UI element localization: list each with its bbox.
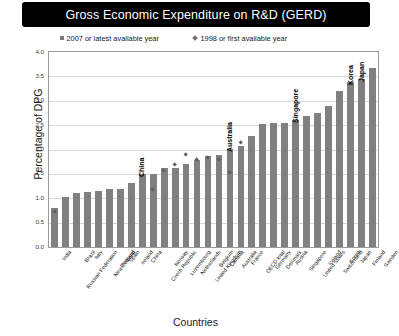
bar <box>139 174 146 247</box>
y-tick-label: 1.0 <box>22 194 44 201</box>
legend-label-1998: 1998 or first available year <box>200 34 287 43</box>
x-axis-ticks: IndiaRussian FederationBrazilItalyNew Ze… <box>48 249 379 311</box>
plot-area: ChinaAustraliaSingaporeKoreaJapan <box>48 51 379 248</box>
diamond-marker <box>184 152 189 157</box>
bar <box>248 136 255 247</box>
bar <box>369 68 376 247</box>
bar-annotation: Korea <box>347 65 354 85</box>
y-tick-label: 0.5 <box>22 218 44 225</box>
bar <box>62 197 69 247</box>
page-title: Gross Economic Expenditure on R&D (GERD) <box>65 8 326 22</box>
bar <box>117 189 124 248</box>
bars-layer <box>49 52 378 247</box>
bar <box>347 82 354 247</box>
bar-annotation: Singapore <box>292 89 299 123</box>
bar <box>303 116 310 247</box>
bar-annotation: Japan <box>358 62 365 82</box>
bar-annotation: China <box>138 158 145 177</box>
chart-legend: 2007 or latest available year 1998 or fi… <box>60 31 360 45</box>
bar <box>106 189 113 247</box>
bar <box>172 168 179 247</box>
bar <box>84 192 91 247</box>
diamond-marker <box>239 140 244 145</box>
chart-title-banner: Gross Economic Expenditure on R&D (GERD) <box>22 2 370 27</box>
y-tick-label: 3.0 <box>22 96 44 103</box>
bar <box>227 149 234 247</box>
bar <box>314 113 321 247</box>
bar <box>281 123 288 247</box>
bar <box>238 146 245 247</box>
x-tick-label: India <box>61 249 73 262</box>
legend-item-2007: 2007 or latest available year <box>60 34 159 43</box>
bar <box>128 183 135 247</box>
bar <box>73 193 80 247</box>
legend-item-1998: 1998 or first available year <box>193 34 287 43</box>
legend-label-2007: 2007 or latest available year <box>67 34 159 43</box>
bar-annotation: Australia <box>226 122 233 152</box>
bar <box>95 191 102 247</box>
bar <box>325 106 332 247</box>
bar <box>161 168 168 247</box>
x-tick-label: Singapore <box>307 249 327 272</box>
y-tick-label: 0.0 <box>22 243 44 250</box>
bar <box>270 123 277 247</box>
y-tick-label: 1.5 <box>22 169 44 176</box>
x-axis-title: Countries <box>0 316 391 328</box>
bar <box>183 164 190 247</box>
bar <box>336 91 343 247</box>
y-tick-label: 2.5 <box>22 121 44 128</box>
bar <box>358 79 365 247</box>
bar <box>259 124 266 247</box>
bar <box>205 156 212 247</box>
y-tick-label: 4.0 <box>22 48 44 55</box>
bar <box>216 155 223 247</box>
y-tick-label: 3.5 <box>22 72 44 79</box>
bar <box>150 174 157 247</box>
square-marker-icon <box>60 36 64 40</box>
diamond-marker-icon <box>192 35 198 41</box>
bar <box>194 160 201 247</box>
bar <box>292 120 299 247</box>
y-tick-label: 2.0 <box>22 145 44 152</box>
